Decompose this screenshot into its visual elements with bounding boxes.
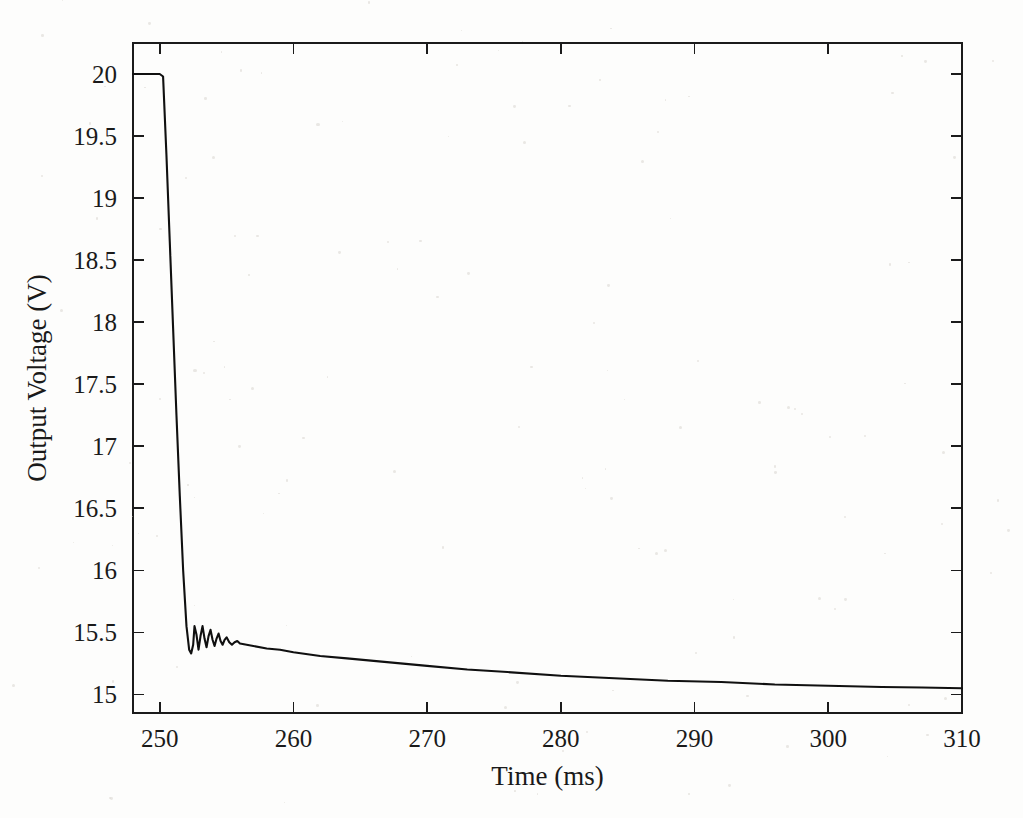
scan-speck xyxy=(498,50,499,51)
x-tick-label-260: 260 xyxy=(275,725,313,752)
y-tick-label-15: 15 xyxy=(92,681,117,708)
scan-speck xyxy=(148,22,151,25)
scan-speck xyxy=(194,605,195,606)
scan-speck xyxy=(904,383,905,384)
scan-speck xyxy=(212,156,215,159)
y-tick-label-19: 19 xyxy=(92,185,117,212)
scan-speck xyxy=(887,756,888,757)
line-chart: 1515.51616.51717.51818.51919.52025026027… xyxy=(0,0,1023,818)
x-tick-label-250: 250 xyxy=(141,725,179,752)
scan-speck xyxy=(368,1,371,4)
scan-speck xyxy=(456,64,458,66)
y-tick-label-20: 20 xyxy=(92,61,117,88)
y-tick-label-15.5: 15.5 xyxy=(73,619,117,646)
y-tick-label-16.5: 16.5 xyxy=(73,495,117,522)
scan-speck xyxy=(89,122,92,125)
scan-speck xyxy=(411,656,412,657)
scan-speck xyxy=(599,79,601,81)
scan-speck xyxy=(461,30,462,31)
scan-speck xyxy=(786,745,789,748)
scan-speck xyxy=(537,793,539,795)
scan-speck xyxy=(585,488,586,489)
scan-speck xyxy=(176,666,178,668)
scan-speck xyxy=(316,123,319,126)
scan-speck xyxy=(562,750,564,752)
scan-speck xyxy=(607,284,610,287)
scan-speck xyxy=(513,105,516,108)
scan-speck xyxy=(96,217,98,219)
scan-speck xyxy=(818,597,821,600)
data-series-0 xyxy=(133,74,962,688)
scan-speck xyxy=(159,228,161,230)
scan-speck xyxy=(891,92,894,95)
x-tick-label-310: 310 xyxy=(943,725,981,752)
y-tick-label-16: 16 xyxy=(92,557,117,584)
y-tick-label-18.5: 18.5 xyxy=(73,247,117,274)
scan-speck xyxy=(522,41,523,42)
scan-speck xyxy=(794,408,796,410)
scan-speck xyxy=(187,484,189,486)
scan-speck xyxy=(695,652,697,654)
scan-speck xyxy=(41,34,44,37)
scan-speck xyxy=(203,372,205,374)
scan-speck xyxy=(655,552,658,555)
scan-speck xyxy=(204,97,207,100)
plot-frame xyxy=(133,43,962,713)
x-tick-label-270: 270 xyxy=(408,725,446,752)
scan-speck xyxy=(605,468,606,469)
y-tick-label-17: 17 xyxy=(92,433,117,460)
y-tick-label-17.5: 17.5 xyxy=(73,371,117,398)
scan-speck xyxy=(908,262,909,263)
scan-speck xyxy=(889,263,892,266)
scan-speck xyxy=(953,156,956,159)
scan-speck xyxy=(44,353,47,356)
scan-speck xyxy=(248,274,249,275)
scan-speck xyxy=(442,546,445,549)
x-tick-label-300: 300 xyxy=(810,725,848,752)
scan-speck xyxy=(774,471,776,473)
y-tick-label-18: 18 xyxy=(92,309,117,336)
scan-speck xyxy=(844,598,847,601)
scan-speck xyxy=(33,456,34,457)
scan-speck xyxy=(327,376,328,377)
scan-speck xyxy=(901,55,902,56)
scan-speck xyxy=(787,406,790,409)
scan-speck xyxy=(238,445,241,448)
x-tick-label-280: 280 xyxy=(542,725,580,752)
scan-speck xyxy=(338,251,341,254)
y-axis-title: Output Voltage (V) xyxy=(22,274,52,481)
scan-speck xyxy=(610,497,613,500)
scan-speck xyxy=(523,141,526,144)
scan-speck xyxy=(607,370,608,371)
scan-speck xyxy=(829,436,831,438)
scan-speck xyxy=(171,255,172,256)
scan-speck xyxy=(286,479,289,482)
scan-speck xyxy=(240,69,242,71)
scan-speck xyxy=(942,451,945,454)
scan-speck xyxy=(156,535,158,537)
scan-speck xyxy=(990,572,992,574)
scan-speck xyxy=(514,790,516,792)
scan-speck xyxy=(138,533,139,534)
scan-speck xyxy=(302,437,304,439)
scan-speck xyxy=(251,387,254,390)
scan-speck xyxy=(316,704,319,707)
scan-speck xyxy=(467,272,470,275)
scan-speck xyxy=(758,401,761,404)
y-tick-label-19.5: 19.5 xyxy=(73,123,117,150)
figure-canvas: 1515.51616.51717.51818.51919.52025026027… xyxy=(0,0,1023,818)
scan-speck xyxy=(516,681,519,684)
scan-speck xyxy=(193,369,196,372)
scan-speck xyxy=(612,690,613,691)
x-tick-label-290: 290 xyxy=(676,725,714,752)
x-axis-title: Time (ms) xyxy=(491,761,603,791)
scan-speck xyxy=(688,793,690,795)
